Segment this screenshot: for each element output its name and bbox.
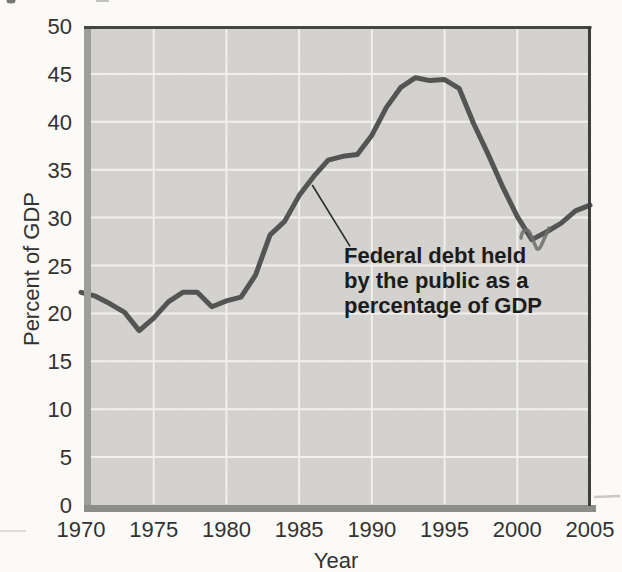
x-tick-label: 1980: [202, 517, 251, 542]
x-tick-label: 1970: [57, 517, 106, 542]
x-axis-title: Year: [0, 548, 622, 572]
annotation-line-1: Federal debt held: [344, 243, 542, 268]
y-tick-label: 15: [48, 349, 72, 374]
x-tick-label: 2005: [566, 517, 615, 542]
y-axis-title: Percent of GDP: [19, 184, 45, 354]
x-tick-label: 1990: [347, 517, 396, 542]
scan-smudge-top-left: [7, 0, 16, 4]
x-tick-label: 1995: [420, 517, 469, 542]
y-tick-label: 10: [48, 397, 72, 422]
y-tick-label: 40: [48, 110, 72, 135]
y-tick-label: 35: [48, 158, 72, 183]
y-tick-label: 45: [48, 62, 72, 87]
annotation-line-3: percentage of GDP: [344, 293, 542, 318]
y-tick-label: 5: [60, 445, 72, 470]
y-tick-label: 0: [60, 493, 72, 518]
y-tick-label: 20: [48, 301, 72, 326]
x-tick-label: 1985: [275, 517, 324, 542]
y-tick-label: 30: [48, 206, 72, 231]
x-tick-label: 1975: [129, 517, 178, 542]
scan-smudge-top: [96, 0, 109, 2]
x-tick-label: 2000: [493, 517, 542, 542]
annotation-line-2: by the public as a: [344, 268, 542, 293]
scan-dash-right: [594, 496, 620, 497]
debt-gdp-figure: 0510152025303540455019701975198019851990…: [0, 0, 622, 572]
series-annotation: Federal debt held by the public as a per…: [344, 243, 542, 318]
y-tick-label: 25: [48, 254, 72, 279]
y-tick-label: 50: [48, 14, 72, 39]
